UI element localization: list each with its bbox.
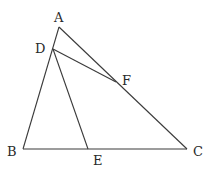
- triangle-diagram: A D F B E C: [0, 0, 213, 174]
- segment-ac: [59, 27, 187, 149]
- label-f: F: [122, 73, 131, 88]
- label-a: A: [53, 10, 64, 25]
- label-b: B: [7, 144, 17, 159]
- label-e: E: [93, 153, 103, 168]
- label-d: D: [35, 41, 45, 56]
- label-c: C: [193, 144, 203, 159]
